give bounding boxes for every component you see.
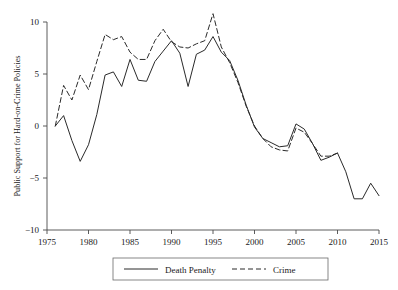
y-tick-label: −5	[29, 173, 39, 183]
x-tick-label: 1990	[163, 237, 182, 247]
series-group	[55, 14, 379, 199]
x-tick-label: 1985	[121, 237, 140, 247]
line-chart-svg: Public Support for Hard-on-Crime Policie…	[0, 0, 398, 290]
y-axis-title-group: Public Support for Hard-on-Crime Policie…	[13, 56, 22, 197]
y-axis-ticks: 1050−5−10	[25, 17, 47, 235]
x-tick-label: 2005	[287, 237, 306, 247]
x-tick-label: 1980	[80, 237, 99, 247]
y-tick-label: 0	[35, 121, 40, 131]
x-tick-label: 2000	[246, 237, 265, 247]
x-tick-label: 2015	[370, 237, 389, 247]
x-axis-ticks: 197519801985199019952000200520102015	[38, 230, 389, 247]
x-tick-label: 1975	[38, 237, 57, 247]
x-tick-label: 2010	[329, 237, 348, 247]
series-line-crime	[55, 14, 337, 156]
axes-group	[47, 22, 379, 230]
chart-figure: Public Support for Hard-on-Crime Policie…	[0, 0, 398, 290]
legend-label-death-penalty: Death Penalty	[165, 265, 216, 275]
series-line-death-penalty	[55, 37, 379, 199]
x-tick-label: 1995	[204, 237, 223, 247]
legend-label-crime: Crime	[273, 265, 296, 275]
y-axis-title: Public Support for Hard-on-Crime Policie…	[13, 56, 22, 197]
y-tick-label: 5	[35, 69, 40, 79]
y-tick-label: 10	[30, 17, 40, 27]
legend: Death Penalty Crime	[113, 258, 328, 280]
y-tick-label: −10	[25, 225, 40, 235]
